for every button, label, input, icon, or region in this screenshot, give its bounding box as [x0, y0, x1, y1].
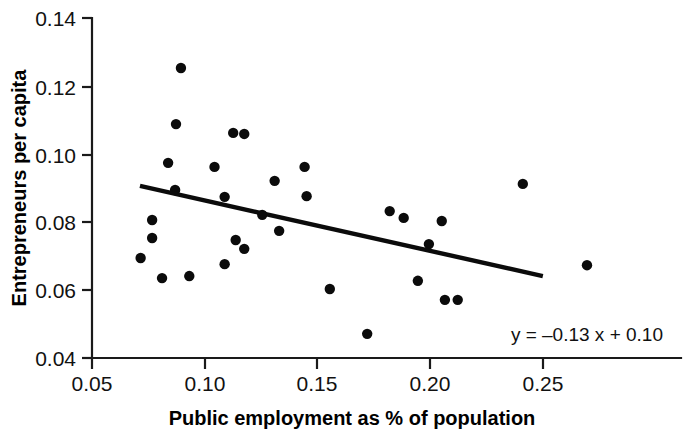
x-tick-label-0.15: 0.15 — [297, 372, 338, 395]
y-tick-label-0.06: 0.06 — [35, 279, 76, 302]
data-point — [176, 63, 186, 73]
data-point — [325, 284, 335, 294]
x-axis-ticks — [92, 358, 543, 369]
x-tick-label-0.20: 0.20 — [410, 372, 451, 395]
data-point — [184, 271, 194, 281]
x-tick-label-0.25: 0.25 — [523, 372, 564, 395]
data-point — [230, 235, 240, 245]
data-point — [239, 244, 249, 254]
x-tick-label-0.05: 0.05 — [72, 372, 113, 395]
y-tick-label-0.10: 0.10 — [35, 144, 76, 167]
data-point — [413, 276, 423, 286]
regression-equation-label: y = –0.13 x + 0.10 — [511, 324, 663, 345]
data-point — [209, 162, 219, 172]
data-point — [228, 128, 238, 138]
data-point — [301, 191, 311, 201]
y-axis-title: Entrepreneurs per capita — [8, 69, 30, 307]
x-tick-label-0.10: 0.10 — [185, 372, 226, 395]
trend-line-layer — [140, 186, 543, 276]
data-point — [157, 273, 167, 283]
y-tick-label-0.14: 0.14 — [35, 7, 76, 30]
data-point — [398, 213, 408, 223]
data-point — [582, 260, 592, 270]
data-point — [299, 162, 309, 172]
data-point — [440, 295, 450, 305]
data-point — [362, 329, 372, 339]
data-point — [219, 192, 229, 202]
x-axis-title: Public employment as % of population — [169, 407, 536, 429]
data-point — [135, 253, 145, 263]
data-point — [274, 226, 284, 236]
y-tick-label-0.04: 0.04 — [35, 347, 76, 370]
data-point — [147, 233, 157, 243]
data-point — [385, 206, 395, 216]
scatter-chart: 0.04 0.06 0.08 0.10 0.12 0.14 0.05 0.10 … — [0, 0, 685, 437]
trend-line — [140, 186, 543, 276]
chart-page: 0.04 0.06 0.08 0.10 0.12 0.14 0.05 0.10 … — [0, 0, 685, 437]
data-point — [171, 119, 181, 129]
data-point — [437, 216, 447, 226]
data-point — [163, 158, 173, 168]
data-point — [269, 176, 279, 186]
data-point — [453, 295, 463, 305]
y-axis-ticks — [82, 18, 92, 358]
data-point — [147, 215, 157, 225]
data-point — [518, 179, 528, 189]
data-point — [219, 259, 229, 269]
y-tick-label-0.12: 0.12 — [35, 76, 76, 99]
y-tick-label-0.08: 0.08 — [35, 211, 76, 234]
data-point — [239, 129, 249, 139]
